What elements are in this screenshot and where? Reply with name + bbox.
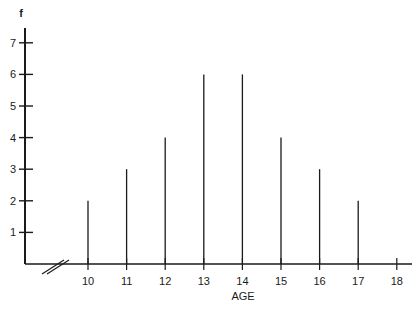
frequency-spike-chart: f 1234567 101112131415161718 AGE [0,0,418,310]
y-tick-label: 5 [10,100,16,112]
y-tick-label: 1 [10,226,16,238]
x-tick-label: 10 [82,275,94,287]
y-ticks: 1234567 [10,37,33,239]
x-axis-label: AGE [231,290,254,302]
x-tick-label: 13 [198,275,210,287]
x-tick-label: 11 [121,275,132,287]
x-tick-label: 16 [313,275,325,287]
x-tick-label: 17 [352,275,364,287]
y-tick: 2 [10,195,33,207]
x-tick-label: 14 [236,275,248,287]
x-tick-label: 15 [275,275,287,287]
y-tick: 1 [10,226,33,238]
y-tick: 7 [10,37,33,49]
y-tick-label: 7 [10,37,16,49]
y-axis-label: f [19,7,23,19]
y-tick: 6 [10,68,33,80]
x-tick: 18 [391,258,403,287]
y-tick-label: 2 [10,195,16,207]
y-tick-label: 3 [10,163,16,175]
y-tick: 5 [10,100,33,112]
x-tick-label: 12 [159,275,171,287]
data-spikes [88,74,358,264]
axes [25,28,412,274]
y-tick: 3 [10,163,33,175]
y-tick-label: 4 [10,132,16,144]
y-tick: 4 [10,132,33,144]
axis-break-icon [42,260,69,274]
x-tick-label: 18 [391,275,403,287]
y-tick-label: 6 [10,68,16,80]
